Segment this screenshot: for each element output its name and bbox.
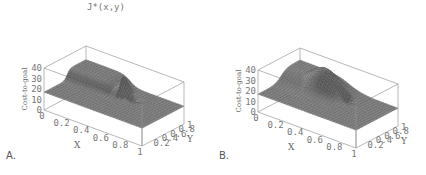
- x-tick-label: 0.6: [93, 133, 109, 143]
- surface-plot-a: J*(x,y)00.20.40.60.81X0.20.40.60.81Y0102…: [0, 0, 213, 175]
- z-axis-label: Cost-to-goal: [235, 69, 243, 113]
- x-tick-label: 0.2: [267, 120, 283, 130]
- y-axis-label: Y: [400, 136, 408, 146]
- z-tick-label: 10: [31, 95, 42, 105]
- x-tick-label: 0.8: [326, 142, 342, 152]
- z-tick-label: 30: [245, 76, 256, 86]
- x-tick-label: 1: [351, 149, 356, 159]
- x-tick-label: 0.8: [112, 140, 128, 150]
- x-tick-label: 0.4: [73, 125, 89, 135]
- x-tick-label: 0.2: [53, 118, 69, 128]
- panel-label-a: A.: [6, 150, 16, 161]
- x-tick-label: 0.6: [307, 135, 323, 145]
- panel-label-b: B.: [219, 150, 229, 161]
- z-tick-label: 20: [245, 86, 256, 96]
- z-tick-label: 0: [37, 105, 42, 115]
- z-tick-label: 0: [251, 107, 256, 117]
- x-tick-label: 0.4: [287, 127, 303, 137]
- z-tick-label: 40: [245, 65, 256, 75]
- surface-plot-b: 00.20.40.60.81X0.20.40.60.81Y010203040Co…: [213, 0, 426, 175]
- z-axis-label: Cost-to-goal: [21, 67, 29, 111]
- chart-panel-a: J*(x,y)00.20.40.60.81X0.20.40.60.81Y0102…: [0, 0, 213, 175]
- y-tick-label: 1: [187, 120, 192, 130]
- x-axis-label: X: [74, 140, 81, 150]
- z-tick-label: 10: [245, 97, 256, 107]
- chart-title: J*(x,y): [87, 2, 125, 12]
- z-tick-label: 30: [31, 74, 42, 84]
- x-axis-label: X: [288, 142, 295, 152]
- z-tick-label: 40: [31, 63, 42, 73]
- y-tick-label: 1: [401, 122, 406, 132]
- chart-panel-b: 00.20.40.60.81X0.20.40.60.81Y010203040Co…: [213, 0, 426, 175]
- x-tick-label: 1: [137, 147, 142, 157]
- y-axis-label: Y: [186, 134, 194, 144]
- z-tick-label: 20: [31, 84, 42, 94]
